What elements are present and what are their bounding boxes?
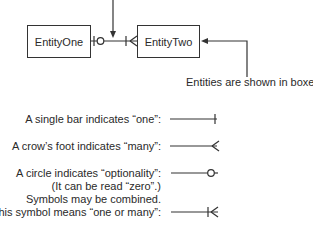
legend-circle-label: A circle indicates “optionality”: (16, 167, 161, 180)
arrowhead-icon (110, 31, 116, 38)
circle-icon (208, 170, 215, 177)
crows-foot-icon (212, 141, 219, 146)
legend-single-bar-label: A single bar indicates “one”: (25, 113, 161, 126)
arrowhead-icon (201, 38, 208, 44)
crows-foot-icon (211, 207, 218, 212)
entity-one-label: EntityOne (35, 36, 83, 48)
circle-icon (97, 38, 104, 45)
crows-foot-icon (130, 36, 137, 41)
legend-crows-foot-label: A crow’s foot indicates “many”: (12, 140, 161, 153)
legend-combined-label: This symbol means “one or many”: (0, 206, 161, 219)
entity-two-box: EntityTwo (137, 25, 200, 58)
entity-two-label: EntityTwo (145, 36, 193, 48)
callout-text: Entities are shown in boxes. (186, 76, 313, 89)
legend-combined-line1: Symbols may be combined. (26, 193, 161, 206)
legend-circle-sublabel: (It can be read “zero”.) (52, 180, 161, 193)
callout-arrow (206, 41, 247, 77)
entity-one-box: EntityOne (27, 25, 91, 58)
